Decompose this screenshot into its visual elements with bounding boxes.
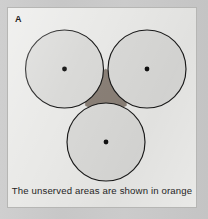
figure-panel: A The unserved areas are shown in orange <box>7 7 197 208</box>
figure-caption: The unserved areas are shown in orange <box>8 186 196 197</box>
top-left-center-dot <box>62 67 67 72</box>
bottom-center-dot <box>104 140 109 145</box>
circle-packing-diagram <box>8 8 197 208</box>
panel-label: A <box>15 15 22 24</box>
figure-root: A The unserved areas are shown in orange <box>0 0 208 219</box>
top-right-center-dot <box>145 67 150 72</box>
